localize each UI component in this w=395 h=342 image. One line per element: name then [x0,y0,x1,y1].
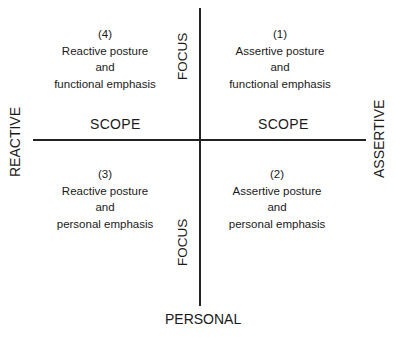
quadrant-line3: personal emphasis [40,216,170,233]
quadrant-number: (2) [212,166,342,183]
quadrant-line3: personal emphasis [212,216,342,233]
quadrant-line1: Assertive posture [215,43,345,60]
focus-label-bottom: FOCUS [175,219,190,266]
quadrant-line1: Reactive posture [40,43,170,60]
scope-label-left: SCOPE [90,116,141,132]
quadrant-1: (1) Assertive posture and functional emp… [215,26,345,92]
quadrant-number: (3) [40,166,170,183]
quadrant-line3: functional emphasis [40,76,170,93]
quadrant-2: (2) Assertive posture and personal empha… [212,166,342,232]
quadrant-line1: Reactive posture [40,183,170,200]
quadrant-line2: and [215,59,345,76]
reactive-axis-label: REACTIVE [7,107,23,177]
quadrant-line3: functional emphasis [215,76,345,93]
horizontal-axis-line [33,139,366,141]
assertive-axis-label: ASSERTIVE [371,100,387,178]
quadrant-number: (1) [215,26,345,43]
quadrant-line2: and [212,199,342,216]
quadrant-line2: and [40,199,170,216]
scope-label-right: SCOPE [258,116,309,132]
personal-axis-label: PERSONAL [165,311,241,327]
quadrant-4: (4) Reactive posture and functional emph… [40,26,170,92]
quadrant-number: (4) [40,26,170,43]
quadrant-line2: and [40,59,170,76]
quadrant-3: (3) Reactive posture and personal emphas… [40,166,170,232]
focus-label-top: FOCUS [175,33,190,80]
quadrant-line1: Assertive posture [212,183,342,200]
vertical-axis-line [199,8,201,306]
